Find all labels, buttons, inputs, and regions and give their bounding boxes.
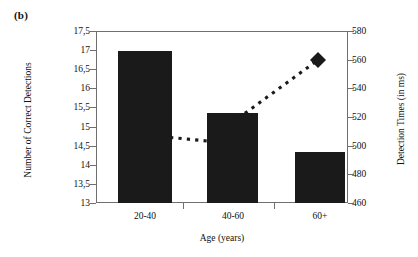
left-axis-tick-label: 14,5 [0,141,90,151]
x-axis-category-labels: 20-40 40-60 60+ [96,211,348,227]
left-axis-tick-label: 15 [0,122,90,132]
right-axis-tick-label: 460 [352,198,380,208]
bar-40-60 [207,113,258,203]
x-axis-tick-mark [183,203,184,209]
left-axis-tick-label: 17 [0,45,90,55]
bar-60-plus [295,152,345,203]
y-axis-title-left: Number of Correct Detections [23,30,33,210]
right-axis-tick-mark [348,203,354,204]
x-axis-title: Age (years) [96,233,348,243]
right-axis-tick-mark [348,174,354,175]
x-axis-label-20-40: 20-40 [112,211,178,222]
left-axis-tick-label: 16,5 [0,64,90,74]
right-axis-tick-label: 540 [352,83,380,93]
left-axis-tick-label: 15,5 [0,102,90,112]
x-axis-tick-mark [274,203,275,209]
y-axis-title-right: Detection Times (in ms) [396,29,406,209]
right-axis-tick-label: 480 [352,169,380,179]
right-axis-tick-label: 500 [352,141,380,151]
right-axis-tick-labels: 580 560 540 520 500 480 460 [352,0,392,257]
left-axis-tick-labels: 17,5 17 16,5 16 15,5 15 14,5 14 13,5 13 [0,0,92,257]
right-axis-tick-mark [348,117,354,118]
left-axis-tick-label: 17,5 [0,26,90,36]
left-axis-tick-label: 13 [0,198,90,208]
bar-20-40 [118,51,172,203]
right-axis-tick-label: 520 [352,112,380,122]
left-axis-tick-mark [90,203,96,204]
left-axis-tick-label: 16 [0,83,90,93]
plot-area [96,31,348,203]
figure-panel-b: (b) 17,5 17 16,5 16 15,5 15 14,5 14 13,5… [0,0,418,257]
right-axis-tick-mark [348,88,354,89]
right-axis-tick-label: 560 [352,55,380,65]
left-axis-tick-label: 13,5 [0,179,90,189]
left-axis-tick-label: 14 [0,160,90,170]
right-axis-tick-mark [348,31,354,32]
x-axis-label-40-60: 40-60 [200,211,266,222]
x-axis-label-60-plus: 60+ [287,211,353,222]
right-axis-tick-label: 580 [352,26,380,36]
right-axis-tick-mark [348,60,354,61]
right-axis-tick-mark [348,146,354,147]
